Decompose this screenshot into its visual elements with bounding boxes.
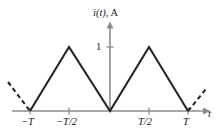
x-axis-label: t	[208, 109, 211, 120]
x-tick-label-neg-T-half: −T/2	[56, 117, 77, 128]
x-tick-label-T: T	[183, 117, 189, 128]
y-axis-quantity-text: i(t)	[93, 7, 106, 18]
waveform-figure: i(t), A 1 −T −T/2 T/2 T t	[0, 0, 220, 134]
waveform-dashed-left	[8, 82, 30, 111]
waveform-plot-svg	[0, 0, 220, 134]
y-axis-arrowhead	[107, 22, 114, 29]
y-axis-label: i(t), A	[93, 8, 118, 19]
x-tick-label-T-half: T/2	[138, 117, 152, 128]
y-axis-unit-text: , A	[106, 7, 118, 18]
waveform-curve	[30, 47, 188, 111]
y-tick-label-one: 1	[96, 42, 101, 53]
x-tick-label-neg-T: −T	[21, 117, 34, 128]
